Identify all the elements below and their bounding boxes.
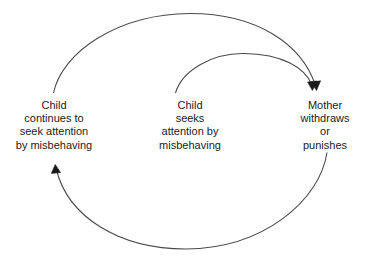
- mother-line-2: withdraws: [285, 112, 365, 125]
- child-continues-node: Child continues to seek attention by mis…: [0, 99, 108, 152]
- arrowhead-bottom-to-child-continues: [51, 165, 60, 174]
- arc-mother-to-child-continues: [57, 153, 328, 250]
- mother-line-1: Mother: [285, 99, 365, 112]
- mother-line-3: or: [285, 125, 365, 138]
- mother-node: Mother withdraws or punishes: [285, 99, 365, 152]
- child-seeks-line-4: misbehaving: [142, 139, 238, 152]
- child-seeks-line-1: Child: [142, 99, 238, 112]
- arc-child-seeks-to-mother: [176, 53, 313, 93]
- diagram-canvas: Child continues to seek attention by mis…: [0, 0, 366, 261]
- child-seeks-line-3: attention by: [142, 125, 238, 138]
- child-seeks-line-2: seeks: [142, 112, 238, 125]
- child-continues-line-2: continues to: [0, 112, 108, 125]
- mother-line-4: punishes: [285, 139, 365, 152]
- child-seeks-node: Child seeks attention by misbehaving: [142, 99, 238, 152]
- child-continues-line-3: seek attention: [0, 125, 108, 138]
- child-continues-line-4: by misbehaving: [0, 139, 108, 152]
- arc-child-continues-to-mother: [54, 14, 316, 94]
- child-continues-line-1: Child: [0, 99, 108, 112]
